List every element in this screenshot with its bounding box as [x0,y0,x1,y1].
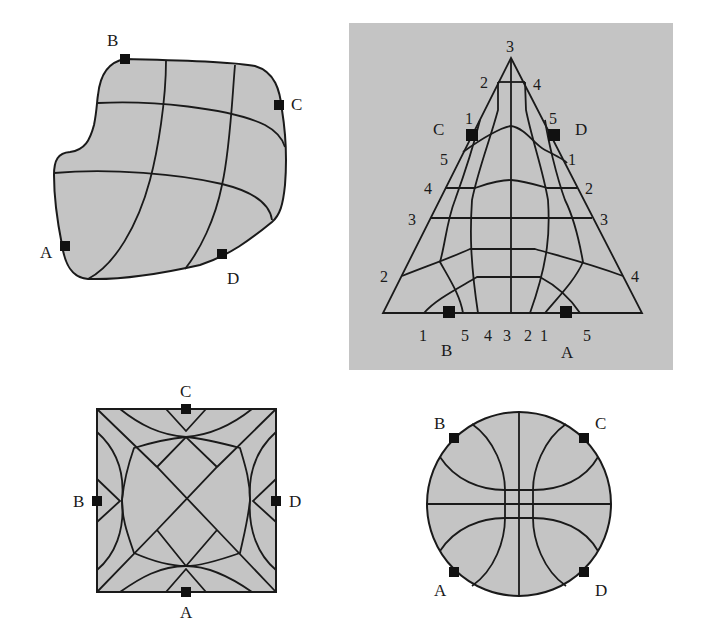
left-edge-number: 4 [424,180,432,197]
label-a: A [561,343,574,362]
label-d: D [595,581,607,600]
bottom-number: 5 [583,327,591,344]
disk-panel: B C A D [427,412,611,600]
left-edge-number: 5 [440,151,448,168]
bottom-number: 1 [540,327,548,344]
marker-a [181,587,191,597]
square-panel: C B D A [73,382,301,622]
marker-c [181,404,191,414]
marker-d [548,129,560,141]
label-d: D [227,269,239,288]
right-edge-number: 5 [549,110,557,127]
bottom-number: 3 [503,327,511,344]
marker-c [466,129,478,141]
bottom-number: 1 [419,327,427,344]
triangle-panel: C D B A 3 2 1 5 4 3 2 4 5 1 2 3 4 1 5 4 … [349,23,673,370]
label-c: C [595,414,606,433]
bottom-number: 4 [484,327,492,344]
right-edge-number: 2 [585,180,593,197]
blob-region [54,59,286,279]
label-b: B [441,341,452,360]
right-edge-number: 4 [533,76,541,93]
right-edge-number: 3 [600,211,608,228]
marker-a [60,241,70,251]
bottom-number: 5 [461,327,469,344]
left-edge-number: 1 [465,110,473,127]
marker-c [579,433,589,443]
marker-d [271,496,281,506]
label-c: C [291,95,302,114]
label-a: A [180,603,193,622]
marker-b [92,496,102,506]
figure-canvas: B C A D C D B A [0,0,704,642]
marker-a [560,306,572,318]
label-c: C [180,382,191,401]
label-a: A [434,581,447,600]
bottom-number: 2 [524,327,532,344]
left-edge-number: 2 [380,268,388,285]
marker-a [449,567,459,577]
marker-c [274,100,284,110]
right-edge-number: 1 [568,151,576,168]
label-b: B [73,492,84,511]
marker-d [579,567,589,577]
label-b: B [107,31,118,50]
blob-panel: B C A D [40,31,302,288]
marker-d [217,249,227,259]
marker-b [449,433,459,443]
label-c: C [433,120,444,139]
label-d: D [575,120,587,139]
marker-b [120,54,130,64]
apex-number: 3 [506,38,514,55]
label-a: A [40,243,53,262]
left-edge-number: 2 [480,74,488,91]
label-d: D [289,492,301,511]
label-b: B [434,414,445,433]
right-edge-number: 4 [631,268,639,285]
marker-b [443,306,455,318]
left-edge-number: 3 [408,211,416,228]
